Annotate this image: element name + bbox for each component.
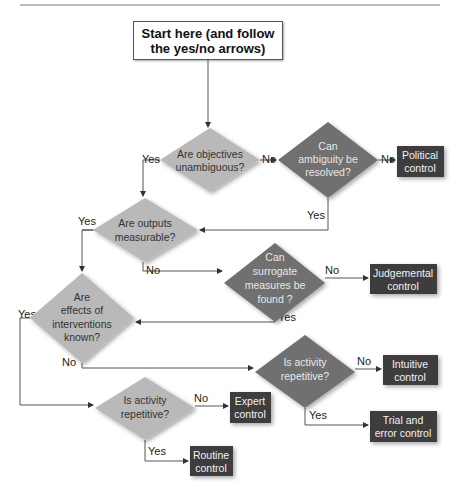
svg-text:Political: Political <box>402 149 438 161</box>
outcome-trial-and-error: Trial and error control <box>370 411 437 442</box>
svg-text:known?: known? <box>64 331 100 343</box>
svg-text:surrogate: surrogate <box>253 265 298 277</box>
decision-outputs: Are outputs measurable? <box>93 198 198 262</box>
svg-text:measures be: measures be <box>245 279 306 291</box>
label-no-outputs: No <box>146 264 160 276</box>
svg-text:Can: Can <box>265 251 284 263</box>
svg-text:control: control <box>394 371 426 383</box>
svg-text:ambiguity be: ambiguity be <box>298 153 358 165</box>
svg-text:control: control <box>234 408 266 420</box>
decision-objectives: Are objectives unambiguous? <box>160 128 260 192</box>
flowchart: Yes No No Yes Yes No No Yes Yes No No Ye… <box>0 0 460 495</box>
label-yes-outputs: Yes <box>78 215 96 227</box>
outcome-intuitive: Intuitive control <box>383 355 438 385</box>
svg-text:Are: Are <box>74 291 91 303</box>
svg-text:control: control <box>387 280 419 292</box>
outcome-routine: Routine control <box>190 446 233 476</box>
svg-text:unambiguous?: unambiguous? <box>176 161 245 173</box>
label-no-objectives: No <box>262 153 276 165</box>
label-no-repetitive-right: No <box>357 355 371 367</box>
svg-text:measurable?: measurable? <box>115 231 176 243</box>
label-yes-ambiguity: Yes <box>307 209 325 221</box>
svg-text:resolved?: resolved? <box>305 166 351 178</box>
svg-text:Intuitive: Intuitive <box>392 358 428 370</box>
svg-text:Is activity: Is activity <box>123 394 167 406</box>
svg-text:Judgemental: Judgemental <box>373 267 433 279</box>
label-yes-repetitive-right: Yes <box>309 409 327 421</box>
outcome-political: Political control <box>397 146 444 177</box>
label-no-surrogate: No <box>325 264 339 276</box>
svg-text:Are objectives: Are objectives <box>177 148 243 160</box>
svg-text:found ?: found ? <box>257 293 292 305</box>
decision-surrogate: Can surrogate measures be found ? <box>224 243 325 322</box>
svg-text:repetitive?: repetitive? <box>281 370 330 382</box>
svg-text:Trial and: Trial and <box>383 414 424 426</box>
svg-text:error control: error control <box>375 427 432 439</box>
svg-text:interventions: interventions <box>52 318 112 330</box>
decision-ambiguity: Can ambiguity be resolved? <box>278 122 378 198</box>
label-yes-repetitive-left: Yes <box>148 445 166 457</box>
svg-text:control: control <box>195 462 227 474</box>
svg-text:Expert: Expert <box>235 395 265 407</box>
svg-text:effects of: effects of <box>61 304 103 316</box>
outcome-judgemental: Judgemental control <box>370 264 437 294</box>
svg-text:Can: Can <box>318 140 337 152</box>
svg-text:Are outputs: Are outputs <box>118 217 172 229</box>
outcome-expert: Expert control <box>230 392 271 423</box>
svg-text:Is activity: Is activity <box>283 356 327 368</box>
label-no-effects: No <box>62 356 76 368</box>
svg-text:Routine: Routine <box>193 449 229 461</box>
label-yes-objectives: Yes <box>142 153 160 165</box>
label-no-ambiguity: No <box>381 153 395 165</box>
decision-effects: Are effects of interventions known? <box>30 273 134 363</box>
label-no-repetitive-left: No <box>194 392 208 404</box>
svg-text:control: control <box>404 162 436 174</box>
decision-repetitive-left: Is activity repetitive? <box>95 377 195 440</box>
svg-text:repetitive?: repetitive? <box>121 408 170 420</box>
